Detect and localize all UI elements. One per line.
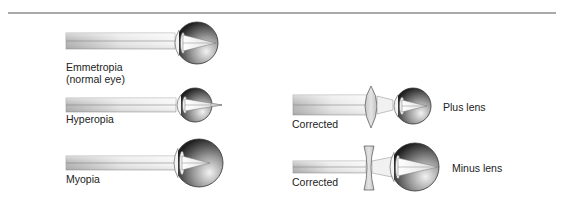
cornea <box>390 152 394 182</box>
refractive-errors-diagram: Emmetropia (normal eye) Hyperopia Myopia… <box>0 0 564 209</box>
label-hyperopia: Hyperopia <box>66 113 114 125</box>
cornea <box>175 30 179 56</box>
label-plus-lens: Plus lens <box>443 101 486 113</box>
panel-emmetropia <box>66 22 218 64</box>
cornea <box>174 148 178 178</box>
plus-lens-convex <box>365 86 377 128</box>
cornea <box>177 94 181 115</box>
label-myopia: Myopia <box>66 173 100 185</box>
label-corrected-minus: Corrected <box>292 176 338 188</box>
label-emmetropia: Emmetropia <box>66 61 123 73</box>
diverging-beam <box>372 157 392 177</box>
label-corrected-plus: Corrected <box>292 118 338 130</box>
cornea <box>394 95 398 117</box>
panel-emmetropia-label: Emmetropia (normal eye) <box>66 61 125 85</box>
label-minus-lens: Minus lens <box>452 162 502 174</box>
converging-beam <box>377 96 393 114</box>
label-normal-eye: (normal eye) <box>66 73 125 85</box>
